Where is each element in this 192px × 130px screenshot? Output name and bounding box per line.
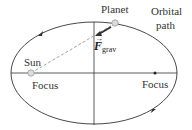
sun-icon	[28, 70, 34, 76]
direction-arrow-left-icon	[38, 31, 43, 36]
orbital-path-label-line2: path	[156, 20, 175, 31]
vector-arrow-icon: →	[95, 35, 103, 43]
planet-label: Planet	[101, 4, 129, 15]
focus-right-label: Focus	[142, 79, 168, 90]
focus-dot-icon	[154, 72, 157, 75]
force-grav-label: →Fgrav	[94, 40, 116, 54]
force-subscript: grav	[102, 45, 116, 54]
focus-left-label: Focus	[32, 80, 58, 91]
force-arrow	[99, 27, 111, 34]
orbital-path-label-line1: Orbital	[151, 6, 182, 17]
planet-icon	[112, 20, 118, 26]
sun-label: Sun	[24, 57, 41, 68]
